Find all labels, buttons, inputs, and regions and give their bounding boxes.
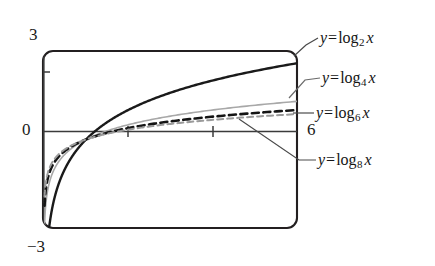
y-axis-zero-label: 0 [22,121,31,138]
log8-arg: x [362,151,371,168]
plot-frame [43,51,297,228]
leader-line-log2 [294,38,318,56]
log4-fname: log [340,69,360,86]
log6-fname: log [334,104,354,121]
log6-equals: = [323,104,334,121]
log8-equals: = [325,151,336,168]
curve-label-log2: y=log2x [320,30,374,48]
log8-fname: log [336,151,356,168]
figure-root: 3 0 −3 6 y=log2x y=log4x y=log6x y=log8x [0,0,435,266]
log6-arg: x [360,104,369,121]
curve-label-log4: y=log4x [322,70,376,88]
curve-label-log6: y=log6x [316,105,370,123]
log2-fname: log [338,29,358,46]
x-axis-max-label: 6 [307,121,316,138]
y-axis-min-label: −3 [27,238,45,255]
y-axis-max-label: 3 [29,26,38,43]
log4-arg: x [366,69,375,86]
curve-label-log8: y=log8x [318,152,372,170]
log4-equals: = [329,69,340,86]
log2-equals: = [327,29,338,46]
log2-arg: x [364,29,373,46]
